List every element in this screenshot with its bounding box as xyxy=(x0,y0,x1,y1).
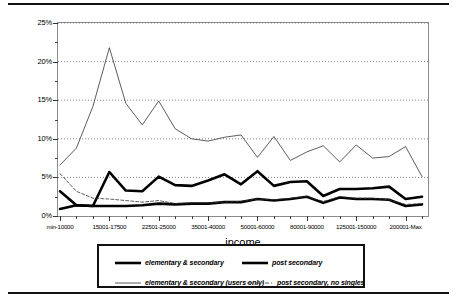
x-tick-label: 22501-25000 xyxy=(142,223,176,230)
y-tick-label: 10% xyxy=(16,134,52,143)
y-tick xyxy=(53,100,58,101)
x-tick-label: 200001-Max xyxy=(390,223,422,230)
x-tick-label: min-10000 xyxy=(47,223,74,230)
legend-item-post-secondary[interactable]: post secondary xyxy=(242,253,322,271)
y-tick xyxy=(53,139,58,140)
x-tick xyxy=(257,216,258,221)
legend-key-bold-solid-line xyxy=(242,253,268,271)
x-tick-label: 125001-150000 xyxy=(336,223,376,230)
series-line-0 xyxy=(60,171,422,206)
x-tick xyxy=(159,216,160,221)
x-tick xyxy=(307,216,308,221)
x-tick-minor xyxy=(323,216,324,219)
x-tick-minor xyxy=(225,216,226,219)
legend-row-2: elementary & secondary (users only) post… xyxy=(99,270,363,288)
series-line-1 xyxy=(60,197,422,209)
legend-row-1: elementary & secondary post secondary xyxy=(99,250,363,268)
x-tick-minor xyxy=(290,216,291,219)
x-tick-minor xyxy=(422,216,423,219)
x-tick xyxy=(356,216,357,221)
chart-legend: elementary & secondary post secondary el… xyxy=(97,244,365,288)
top-divider xyxy=(8,3,449,5)
y-tick-label: 0% xyxy=(16,211,52,220)
legend-label: post secondary, no singles xyxy=(277,279,364,286)
y-tick-label: 5% xyxy=(16,172,52,181)
chart-container: percent of post-fisc income 0%5%10%15%20… xyxy=(0,14,457,229)
legend-key-thin-dashed-line xyxy=(247,273,273,291)
legend-key-thin-solid-line xyxy=(115,273,141,291)
y-tick-label: 15% xyxy=(16,95,52,104)
y-tick xyxy=(53,62,58,63)
y-tick-label: 20% xyxy=(16,57,52,66)
x-tick-minor xyxy=(126,216,127,219)
legend-key-bold-solid-line xyxy=(115,253,141,271)
x-tick xyxy=(109,216,110,221)
x-tick-label: 15001-17500 xyxy=(92,223,126,230)
x-tick-minor xyxy=(373,216,374,219)
y-tick xyxy=(53,216,58,217)
legend-label: post secondary xyxy=(272,259,322,266)
legend-item-elementary-secondary[interactable]: elementary & secondary xyxy=(115,253,224,271)
plot-area: 0%5%10%15%20%25%min-1000015001-175002250… xyxy=(57,22,429,217)
legend-label: elementary & secondary xyxy=(145,259,224,266)
x-tick-minor xyxy=(175,216,176,219)
x-tick-label: 50001-60000 xyxy=(241,223,275,230)
x-tick-minor xyxy=(76,216,77,219)
legend-item-post-secondary-no-singles[interactable]: post secondary, no singles xyxy=(247,273,364,291)
x-tick-minor xyxy=(241,216,242,219)
x-tick-minor xyxy=(192,216,193,219)
y-tick-minor xyxy=(55,197,58,198)
x-tick-minor xyxy=(389,216,390,219)
y-tick xyxy=(53,23,58,24)
x-tick-minor xyxy=(340,216,341,219)
y-tick-minor xyxy=(55,158,58,159)
x-tick-minor xyxy=(142,216,143,219)
x-tick-label: 35001-40000 xyxy=(191,223,225,230)
y-tick-minor xyxy=(55,81,58,82)
x-tick xyxy=(406,216,407,221)
y-tick xyxy=(53,177,58,178)
x-tick-minor xyxy=(93,216,94,219)
legend-item-elementary-secondary-users-only[interactable]: elementary & secondary (users only) xyxy=(115,273,264,291)
plot-svg xyxy=(58,23,428,216)
series-line-2 xyxy=(60,48,422,177)
x-tick-label: 80001-90000 xyxy=(290,223,324,230)
x-tick xyxy=(208,216,209,221)
y-tick-label: 25% xyxy=(16,18,52,27)
y-tick-minor xyxy=(55,120,58,121)
x-tick xyxy=(60,216,61,221)
bottom-divider xyxy=(8,292,449,294)
x-tick-minor xyxy=(274,216,275,219)
chart-page: percent of post-fisc income 0%5%10%15%20… xyxy=(0,0,457,299)
y-tick-minor xyxy=(55,42,58,43)
